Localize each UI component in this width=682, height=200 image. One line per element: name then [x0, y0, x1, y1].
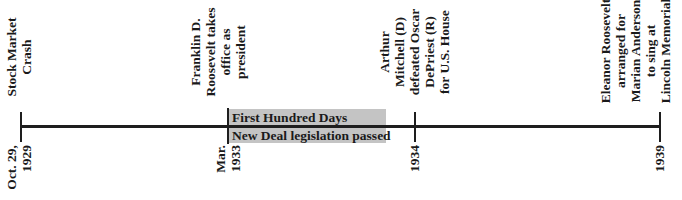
event-label-line: Mitchell (D)	[392, 2, 407, 102]
tick-1934	[414, 112, 416, 142]
date-label-line: 1934	[407, 145, 422, 180]
tick-1933-overlay	[227, 108, 229, 144]
event-label-line: Crash	[19, 12, 34, 102]
event-label-line: to sing at	[643, 0, 658, 105]
event-label-fdr-takes-office: Franklin D. Roosevelt takes office as pr…	[188, 2, 248, 102]
event-label-stock-market-crash: Stock Market Crash	[4, 12, 34, 102]
span-label-first-hundred-days: First Hundred Days	[232, 110, 347, 125]
date-label-line: 1939	[652, 145, 667, 180]
date-label-line: 1933	[228, 145, 243, 197]
date-label-1939: 1939	[652, 145, 667, 180]
date-label-line: Oct. 29,	[4, 145, 19, 197]
event-label-line: president	[233, 2, 248, 102]
tick-1929	[20, 112, 22, 142]
event-label-line: arranged for	[613, 0, 628, 105]
event-label-line: Stock Market	[4, 12, 19, 102]
date-label-1934: 1934	[407, 145, 422, 180]
event-label-line: Arthur	[377, 2, 392, 102]
date-label-oct-29-1929: Oct. 29, 1929	[4, 145, 34, 197]
span-label-new-deal: New Deal legislation passed	[232, 128, 391, 143]
event-label-line: Franklin D.	[188, 2, 203, 102]
timeline: Stock Market Crash Oct. 29, 1929 Frankli…	[0, 0, 682, 200]
date-label-line: 1929	[19, 145, 34, 197]
event-label-line: Lincoln Memorial	[658, 0, 673, 105]
tick-1939	[659, 112, 661, 142]
event-label-line: Roosevelt takes	[203, 2, 218, 102]
date-label-mar-1933: Mar. 1933	[213, 145, 243, 197]
event-label-mitchell-defeated-depriest: Arthur Mitchell (D) defeated Oscar DePri…	[377, 2, 452, 102]
event-label-line: Eleanor Roosevelt	[598, 0, 613, 105]
date-label-line: Mar.	[213, 145, 228, 197]
event-label-line: DePriest (R)	[422, 2, 437, 102]
timeline-axis-overlay	[229, 125, 386, 128]
event-label-line: for U.S. House	[437, 2, 452, 102]
event-label-line: office as	[218, 2, 233, 102]
event-label-line: Marian Anderson	[628, 0, 643, 105]
event-label-marian-anderson: Eleanor Roosevelt arranged for Marian An…	[598, 0, 673, 105]
event-label-line: defeated Oscar	[407, 2, 422, 102]
